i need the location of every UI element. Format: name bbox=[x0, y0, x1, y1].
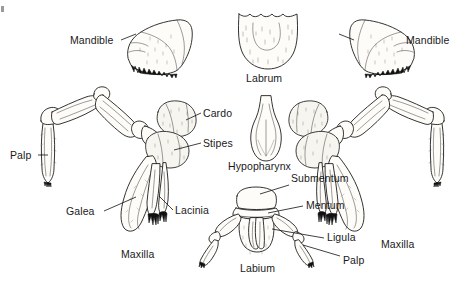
label-maxilla-right: Maxilla bbox=[381, 239, 414, 250]
mandible-left-drawing bbox=[128, 20, 193, 78]
label-mandible-left: Mandible bbox=[70, 35, 113, 46]
label-labrum: Labrum bbox=[246, 73, 282, 84]
labium-drawing bbox=[199, 187, 314, 268]
label-maxilla-left: Maxilla bbox=[121, 249, 154, 260]
label-palp-maxillary-left: Palp bbox=[10, 150, 31, 161]
label-ligula: Ligula bbox=[327, 232, 356, 243]
label-stipes: Stipes bbox=[203, 138, 233, 149]
label-labium: Labium bbox=[240, 263, 275, 274]
label-mentum: Mentum bbox=[306, 200, 345, 211]
hypopharynx-drawing bbox=[251, 96, 282, 161]
label-palp-labial: Palp bbox=[343, 255, 364, 266]
label-cardo: Cardo bbox=[203, 108, 232, 119]
label-mandible-right: Mandible bbox=[406, 35, 449, 46]
labrum-drawing bbox=[238, 14, 297, 69]
label-galea: Galea bbox=[66, 206, 95, 217]
label-submentum: Submentum bbox=[291, 173, 349, 184]
mouthparts-figure: Mandible Mandible Labrum Cardo Stipes Pa… bbox=[0, 0, 475, 283]
label-hypopharynx: Hypopharynx bbox=[228, 161, 291, 172]
mandible-right-drawing bbox=[350, 20, 415, 78]
label-lacinia: Lacinia bbox=[175, 205, 209, 216]
